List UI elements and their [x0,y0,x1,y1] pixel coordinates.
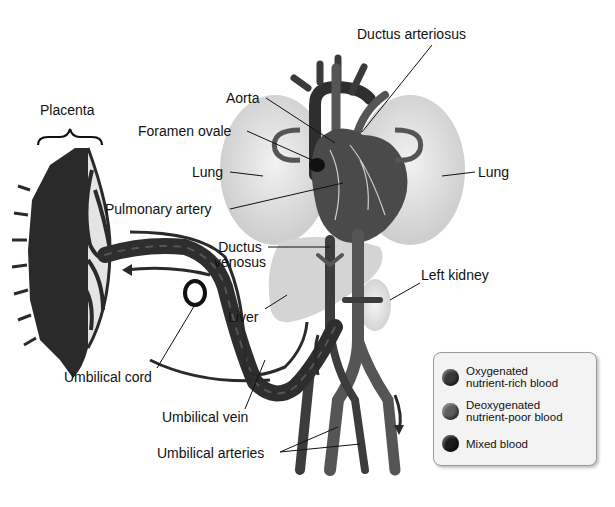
label-ductus-venosus-line2: venosus [210,255,270,270]
label-pulmonary-artery: Pulmonary artery [105,202,212,217]
legend-item-oxygenated: Oxygenated nutrient-rich blood [442,365,558,389]
deoxygenated-swatch-icon [442,403,459,420]
label-umbilical-arteries: Umbilical arteries [157,446,264,461]
legend-item-label: Mixed blood [466,438,528,450]
label-foramen-ovale: Foramen ovale [138,124,231,139]
legend-item-deoxygenated: Deoxygenated nutrient-poor blood [442,399,563,423]
legend-item-mixed: Mixed blood [442,435,528,452]
legend-item-label: nutrient-poor blood [466,411,563,423]
label-lung-right: Lung [478,165,509,180]
label-ductus-venosus-line1: Ductus [210,240,270,255]
legend-item-label: Oxygenated [466,365,558,377]
label-lung-left: Lung [192,165,223,180]
label-umbilical-vein: Umbilical vein [162,410,248,425]
label-left-kidney: Left kidney [421,268,489,283]
label-liver: Liver [228,310,258,325]
label-aorta: Aorta [226,91,259,106]
oxygenated-swatch-icon [442,369,459,386]
placenta [12,148,110,378]
legend-item-label: Deoxygenated [466,399,563,411]
label-umbilical-cord: Umbilical cord [64,370,152,385]
label-ductus-arteriosus: Ductus arteriosus [357,27,466,42]
label-ductus-venosus: Ductus venosus [210,240,270,270]
legend: Oxygenated nutrient-rich blood Deoxygena… [433,352,597,466]
mixed-swatch-icon [442,435,459,452]
legend-item-label: nutrient-rich blood [466,377,558,389]
label-placenta: Placenta [40,103,94,118]
placenta-brace [38,129,102,145]
